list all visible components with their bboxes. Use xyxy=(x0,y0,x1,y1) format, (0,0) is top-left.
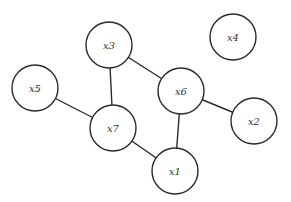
node-label: x2 xyxy=(248,116,260,127)
node-label: x5 xyxy=(29,83,41,94)
node-x3: x3 xyxy=(86,22,132,68)
node-label: x4 xyxy=(227,32,239,43)
node-label: x7 xyxy=(107,123,120,134)
nodes-layer: x1x2x3x4x5x6x7 xyxy=(12,14,277,194)
node-label: x1 xyxy=(169,166,181,177)
node-label: x3 xyxy=(103,40,115,51)
node-x4: x4 xyxy=(210,14,256,60)
node-x5: x5 xyxy=(12,65,58,111)
node-x2: x2 xyxy=(231,98,277,144)
node-label: x6 xyxy=(175,86,188,97)
edges-layer xyxy=(35,45,254,171)
node-x1: x1 xyxy=(152,148,198,194)
graph-svg: x1x2x3x4x5x6x7 xyxy=(0,0,291,202)
node-x6: x6 xyxy=(158,68,204,114)
graph-diagram: x1x2x3x4x5x6x7 xyxy=(0,0,291,202)
node-x7: x7 xyxy=(90,105,136,151)
